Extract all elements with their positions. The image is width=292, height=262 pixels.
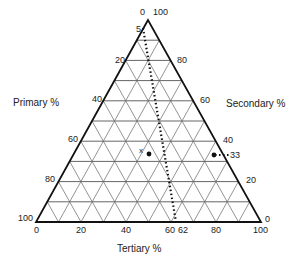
apex-tick-100: 100 <box>153 7 168 17</box>
secondary-tick: 0 <box>265 214 270 224</box>
dotted-line-primary-5-to-tertiary-62 <box>143 28 176 222</box>
primary-tick: 20 <box>115 55 125 65</box>
tertiary-tick: 0 <box>34 225 39 235</box>
primary-tick: 80 <box>45 174 55 184</box>
apex-tick-0: 0 <box>140 7 145 17</box>
tertiary-tick: 20 <box>76 225 86 235</box>
grid-lines <box>47 40 250 222</box>
tertiary-tick: 80 <box>211 225 221 235</box>
tertiary-tick: 100 <box>253 225 268 235</box>
tertiary-axis-title: Tertiary % <box>117 243 161 254</box>
secondary-tick: 60 <box>200 95 210 105</box>
secondary-tick: 40 <box>223 135 233 145</box>
composition-point-33 <box>212 153 217 158</box>
tertiary-tick: 60 <box>165 225 175 235</box>
primary-tick: 60 <box>68 134 78 144</box>
primary-tick: 100 <box>18 213 33 223</box>
primary-tick: 40 <box>92 94 102 104</box>
tertiary-tick: 62 <box>178 225 188 235</box>
composition-point-x <box>147 152 152 157</box>
secondary-tick: 80 <box>177 55 187 65</box>
point-marker-label: x <box>139 146 143 156</box>
apex-tick-5: 5 <box>136 24 141 34</box>
primary-axis-title: Primary % <box>13 97 59 108</box>
secondary-tick: 33 <box>230 150 240 160</box>
secondary-tick: 20 <box>246 175 256 185</box>
tertiary-tick: 40 <box>121 225 131 235</box>
ternary-diagram <box>0 0 292 262</box>
secondary-axis-title: Secondary % <box>226 98 285 109</box>
